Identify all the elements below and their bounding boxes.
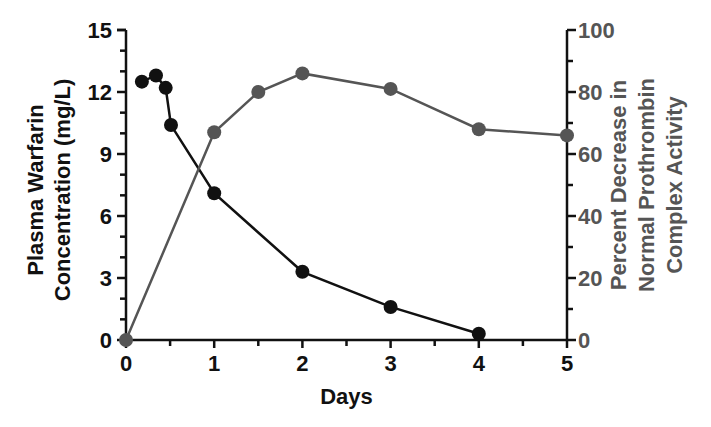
x-tick-label: 4 [473,351,486,376]
left-y-tick-label: 9 [100,142,112,167]
right-y-tick-label: 0 [578,328,590,353]
right-y-tick-label: 60 [578,142,602,167]
right-y-tick-label: 100 [578,18,615,43]
data-point [251,85,265,99]
left-y-tick-label: 3 [100,266,112,291]
data-point [149,68,163,82]
x-tick-label: 3 [384,351,396,376]
warfarin-chart: 03691215020406080100012345 DaysPlasma Wa… [0,0,711,427]
x-tick-label: 0 [120,351,132,376]
svg-text:Percent Decrease in: Percent Decrease in [606,80,631,290]
right-y-axis-title: Percent Decrease inNormal ProthrombinCom… [606,78,687,292]
series-prothrombin-decrease [119,66,574,347]
data-point [135,75,149,89]
left-y-tick-label: 0 [100,328,112,353]
chart-canvas: 03691215020406080100012345 DaysPlasma Wa… [0,0,711,427]
left-y-tick-label: 6 [100,204,112,229]
data-point [472,122,486,136]
right-y-tick-label: 20 [578,266,602,291]
data-point [207,186,221,200]
series-line [126,73,567,340]
data-point [295,66,309,80]
data-point [295,265,309,279]
right-y-tick-label: 80 [578,80,602,105]
data-point [560,128,574,142]
data-point [119,333,133,347]
left-y-tick-label: 12 [88,80,112,105]
x-tick-label: 5 [561,351,573,376]
data-point [207,125,221,139]
left-y-axis-title: Plasma WarfarinConcentration (mg/L) [23,79,75,301]
x-tick-label: 1 [208,351,220,376]
data-point [159,81,173,95]
data-point [384,82,398,96]
x-tick-label: 2 [296,351,308,376]
series-line [142,75,479,333]
x-axis-title: Days [320,384,373,409]
series-layer [119,66,574,347]
data-point [384,300,398,314]
svg-text:Normal Prothrombin: Normal Prothrombin [634,78,659,292]
data-point [164,118,178,132]
right-y-tick-label: 40 [578,204,602,229]
axes: 03691215020406080100012345 [88,18,615,376]
svg-text:Complex Activity: Complex Activity [662,95,687,273]
svg-text:Concentration (mg/L): Concentration (mg/L) [50,79,75,301]
svg-text:Plasma Warfarin: Plasma Warfarin [23,104,48,276]
data-point [472,327,486,341]
left-y-tick-label: 15 [88,18,112,43]
